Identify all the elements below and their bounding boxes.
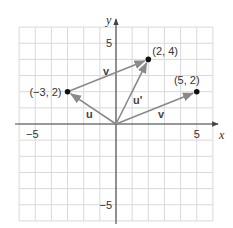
point-neg3-2 bbox=[65, 89, 71, 95]
vector-u-prime-label: u' bbox=[133, 94, 143, 106]
coordinate-plane: xy −555−5 (−3, 2)(2, 4)(5, 2) uvu'v bbox=[0, 0, 233, 228]
point-5-2-label: (5, 2) bbox=[174, 74, 200, 86]
vector-u bbox=[71, 94, 116, 124]
vector-u-label: u bbox=[86, 108, 93, 120]
y-axis-label: y bbox=[105, 13, 112, 27]
vector-v-bottom-label: v bbox=[158, 108, 165, 120]
point-2-4-label: (2, 4) bbox=[152, 45, 178, 57]
point-neg3-2-label: (−3, 2) bbox=[29, 86, 61, 98]
y-tick-label: 5 bbox=[106, 37, 112, 49]
point-5-2 bbox=[194, 89, 200, 95]
vector-v-top-label: v bbox=[103, 65, 110, 77]
x-tick-label: 5 bbox=[194, 128, 200, 140]
x-axis-label: x bbox=[218, 128, 225, 142]
point-2-4 bbox=[146, 57, 152, 63]
vector-v-bottom bbox=[116, 93, 193, 124]
y-tick-label: −5 bbox=[99, 199, 112, 211]
x-tick-label: −5 bbox=[26, 128, 39, 140]
points: (−3, 2)(2, 4)(5, 2) bbox=[29, 45, 199, 97]
axes: xy bbox=[15, 13, 225, 224]
